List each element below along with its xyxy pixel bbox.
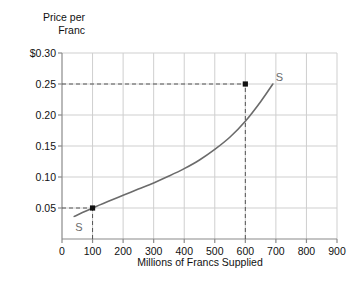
y-tick-label: $0.30 bbox=[6, 48, 56, 58]
y-tick-label: 0.15 bbox=[6, 141, 56, 151]
supply-curve-chart: Price per Franc 0.050.100.150.200.25$0.3… bbox=[0, 0, 362, 288]
supply-curve-label-end: S bbox=[276, 72, 283, 83]
x-axis-title: Millions of Francs Supplied bbox=[62, 256, 338, 268]
supply-curve-label-start: S bbox=[75, 222, 82, 233]
y-tick-label: 0.25 bbox=[6, 79, 56, 89]
lower-equilibrium-point bbox=[90, 205, 95, 210]
y-tick-label: 0.10 bbox=[6, 172, 56, 182]
supply-curve bbox=[74, 84, 273, 216]
y-tick-label: 0.20 bbox=[6, 110, 56, 120]
upper-equilibrium-point bbox=[243, 81, 248, 86]
y-tick-label: 0.05 bbox=[6, 203, 56, 213]
x-tick-label: 900 bbox=[317, 246, 357, 256]
